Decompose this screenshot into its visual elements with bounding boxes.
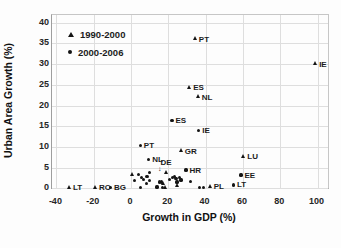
gridline-horizontal [52, 126, 328, 127]
data-point-de [164, 170, 168, 174]
data-point [198, 186, 201, 189]
y-tick-label: 25 [19, 79, 49, 89]
data-point-nl [196, 94, 200, 98]
gridline-vertical [56, 15, 57, 188]
y-tick-label: 40 [19, 17, 49, 27]
data-point [145, 175, 148, 178]
point-label-ie: IE [319, 60, 327, 69]
gridline-horizontal [52, 106, 328, 107]
data-point-pl [208, 184, 212, 188]
x-tick-label: 40 [188, 196, 222, 206]
legend-row: 1990-2000 [68, 25, 125, 43]
point-label-pt: PT [144, 141, 154, 150]
legend: 1990-20002000-2006 [68, 25, 125, 61]
data-point [189, 180, 192, 183]
data-point [202, 186, 205, 189]
data-point [155, 185, 158, 188]
gridline-vertical [243, 15, 244, 188]
y-tick-label: 20 [19, 100, 49, 110]
point-label-nl: NL [202, 93, 213, 102]
data-point-es [170, 119, 173, 122]
y-axis-title: Urban Area Growth (%) [1, 14, 15, 187]
data-point-pt [193, 36, 197, 40]
x-tick-label: 80 [262, 196, 296, 206]
x-tick-label: 60 [225, 196, 259, 206]
point-label-es: ES [193, 83, 204, 92]
point-label-lu: LU [247, 152, 258, 161]
point-label-lt: LT [73, 183, 82, 192]
data-point-lt [67, 185, 71, 189]
gridline-vertical [131, 15, 132, 188]
x-tick-label: -40 [38, 196, 72, 206]
legend-label: 1990-2000 [80, 29, 125, 40]
y-tick-label: 5 [19, 162, 49, 172]
x-tick-label: 0 [113, 196, 147, 206]
data-point [133, 179, 136, 182]
dot-legend-marker-icon [68, 50, 72, 54]
data-point-pt [139, 144, 142, 147]
point-label-ee: EE [245, 171, 256, 180]
data-point [145, 182, 148, 185]
data-point-nl [147, 158, 150, 161]
point-label-es: ES [176, 116, 187, 125]
data-point-ro [93, 185, 97, 189]
gridline-horizontal [52, 23, 328, 24]
point-label-lt: LT [237, 180, 246, 189]
gridline-vertical [318, 15, 319, 188]
y-tick-label: 10 [19, 141, 49, 151]
x-tick-label: 20 [150, 196, 184, 206]
scatter-chart: Urban Area Growth (%) PTIEESNLGRDELUPLLT… [0, 0, 341, 248]
x-tick-label: 100 [300, 196, 334, 206]
point-label-nl: NL [152, 155, 163, 164]
triangle-legend-marker-icon [68, 32, 74, 37]
data-point-lu [241, 154, 245, 158]
point-label-pt: PT [199, 35, 209, 44]
legend-row: 2000-2006 [68, 43, 125, 61]
data-point-ie [313, 61, 317, 65]
gridline-horizontal [52, 64, 328, 65]
point-label-pl: PL [214, 182, 224, 191]
data-point [148, 179, 151, 182]
data-point [137, 173, 140, 176]
data-point-es [187, 85, 191, 89]
point-label-gr: GR [185, 147, 197, 156]
legend-label: 2000-2006 [78, 47, 123, 58]
x-tick-label: -20 [76, 196, 110, 206]
data-point-gr [179, 148, 183, 152]
data-point [142, 178, 145, 181]
data-point [175, 180, 178, 183]
data-point [179, 178, 182, 181]
data-point-hr [184, 168, 187, 171]
data-point [148, 171, 151, 174]
y-tick-label: 30 [19, 58, 49, 68]
gridline-vertical [280, 15, 281, 188]
y-tick-label: 15 [19, 120, 49, 130]
point-label-bg: BG [114, 183, 126, 192]
data-point-ie [197, 129, 200, 132]
data-point-ee [239, 173, 242, 176]
point-label-hr: HR [190, 166, 202, 175]
point-label-ie: IE [202, 126, 210, 135]
annotation-arrow: ↓ [158, 165, 162, 172]
data-point [130, 172, 134, 176]
y-tick-label: 0 [19, 182, 49, 192]
x-axis-title: Growth in GDP (%) [51, 211, 327, 223]
y-tick-label: 35 [19, 37, 49, 47]
plot-area: PTIEESNLGRDELUPLLTROESIEPTNLHREELTBG↓ 19… [51, 14, 329, 189]
data-point-lt [232, 183, 235, 186]
